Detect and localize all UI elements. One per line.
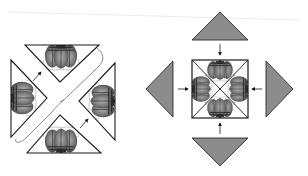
right-panel (146, 12, 293, 166)
arrow-icon (33, 72, 41, 81)
bottom-grey-triangle (192, 138, 248, 166)
top-triangle-panel (25, 43, 99, 82)
top-rule (8, 12, 300, 20)
arrow-icon (80, 119, 88, 128)
right-grey-triangle (266, 61, 293, 117)
left-triangle-panel (9, 60, 47, 137)
diagram-canvas (0, 0, 308, 176)
bottom-triangle-panel (27, 115, 101, 154)
top-grey-triangle (192, 12, 248, 40)
left-panel (9, 43, 117, 155)
left-grey-triangle (146, 61, 173, 117)
right-triangle-panel (79, 63, 116, 140)
center-square (191, 60, 250, 119)
